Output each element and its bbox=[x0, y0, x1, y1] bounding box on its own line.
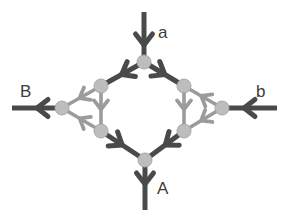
node-n-left bbox=[55, 101, 69, 115]
node-n-upper-right bbox=[177, 79, 191, 93]
diagram-canvas: a b B A bbox=[0, 0, 286, 220]
node-n-lower-right bbox=[177, 124, 191, 138]
node-n-upper-left bbox=[94, 79, 108, 93]
edge-e-ll-bot bbox=[101, 131, 145, 160]
node-n-bottom bbox=[138, 153, 152, 167]
node-n-right bbox=[215, 101, 229, 115]
edge-layer bbox=[12, 12, 277, 210]
node-n-top bbox=[137, 55, 151, 69]
label-b: b bbox=[256, 83, 265, 100]
label-B: B bbox=[20, 83, 31, 100]
graph-svg bbox=[0, 0, 286, 220]
label-a: a bbox=[158, 24, 167, 41]
label-A: A bbox=[157, 180, 168, 197]
node-n-lower-left bbox=[94, 124, 108, 138]
edge-e-in-b bbox=[222, 100, 277, 117]
